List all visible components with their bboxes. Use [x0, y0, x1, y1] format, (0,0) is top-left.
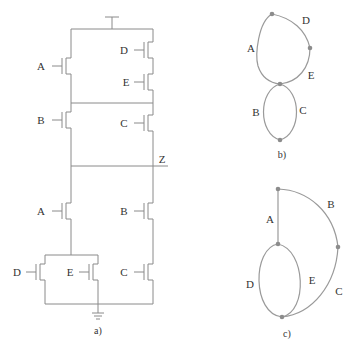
label-c-pulldown: C — [120, 266, 127, 278]
edge-d — [259, 244, 282, 317]
label-edge-a: A — [266, 213, 274, 225]
label-edge-b: B — [327, 198, 334, 210]
label-edge-e: E — [308, 69, 315, 81]
graph-node — [276, 242, 281, 247]
transistor-b-pullup — [52, 112, 71, 166]
vdd-icon — [105, 17, 119, 29]
label-a-pulldown: A — [37, 205, 45, 217]
transistor-d-pulldown — [26, 264, 45, 304]
label-b-pullup: B — [37, 114, 44, 126]
graph-node — [308, 46, 313, 51]
graph-node — [270, 12, 275, 17]
graph-b: A D E B C b) — [247, 12, 315, 161]
figure-canvas: A B D E C Z A D E B C a) A D E B C b) — [0, 0, 352, 348]
graph-node — [336, 245, 341, 250]
transistor-a-pullup — [52, 58, 71, 103]
graph-c: A B C D E c) — [246, 187, 343, 340]
graph-node — [278, 138, 283, 143]
label-e-pullup: E — [123, 76, 130, 88]
graph-node — [278, 82, 283, 87]
edge-a — [257, 14, 280, 84]
circuit-diagram: A B D E C Z A D E B C a) — [13, 17, 168, 337]
label-a-pullup: A — [37, 60, 45, 72]
edge-c — [280, 84, 297, 140]
transistor-c-pulldown — [134, 264, 153, 304]
edge-e — [278, 244, 300, 317]
label-edge-b: B — [252, 106, 259, 118]
label-c-pullup: C — [120, 117, 127, 129]
label-d-pulldown: D — [13, 266, 21, 278]
label-edge-d: D — [302, 14, 310, 26]
graph-node — [280, 315, 285, 320]
label-z-output: Z — [159, 153, 166, 165]
label-edge-c: C — [299, 104, 306, 116]
edge-e — [280, 48, 310, 84]
label-e-pulldown: E — [67, 266, 74, 278]
transistor-e-pulldown — [79, 264, 98, 304]
label-edge-a: A — [247, 42, 255, 54]
caption-a: a) — [94, 325, 102, 337]
label-b-pulldown: B — [120, 205, 127, 217]
transistor-b-pulldown — [134, 203, 153, 264]
label-edge-c: C — [335, 285, 342, 297]
label-d-pullup: D — [120, 44, 128, 56]
caption-b: b) — [278, 149, 286, 161]
graph-node — [276, 187, 281, 192]
edge-b — [264, 84, 281, 140]
caption-c: c) — [283, 328, 291, 340]
transistor-c-pullup — [134, 115, 153, 166]
transistor-d-pullup — [134, 42, 153, 74]
label-edge-e: E — [309, 274, 316, 286]
transistor-a-pulldown — [52, 203, 71, 255]
ground-icon — [92, 304, 104, 319]
transistor-e-pullup — [134, 74, 153, 103]
label-edge-d: D — [246, 278, 254, 290]
